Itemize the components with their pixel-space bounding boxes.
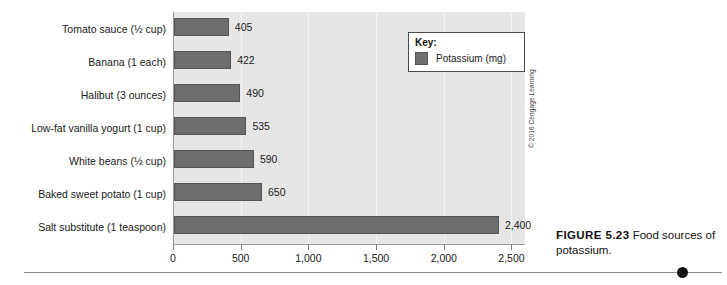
bar [174,18,229,36]
x-tick-label: 1,500 [363,252,389,264]
x-tick-label: 1,000 [295,252,321,264]
legend-entry: Potassium (mg) [415,52,518,65]
bar-value-label: 422 [237,54,255,66]
bar-value-label: 405 [235,21,253,33]
x-tick-mark [511,244,512,250]
category-label: Baked sweet potato (1 cup) [0,188,166,200]
legend-color-swatch [415,52,428,65]
bar-wrapper: 405 [174,18,252,36]
bar-wrapper: 590 [174,150,277,168]
x-tick-mark [241,244,242,250]
bar-wrapper: 535 [174,117,270,135]
bar [174,216,499,234]
x-tick-label: 2,000 [431,252,457,264]
bar-wrapper: 490 [174,84,264,102]
figure-caption: FIGURE 5.23 Food sources of potassium. [556,228,724,258]
bar-chart: Tomato sauce (½ cup)405Banana (1 each)42… [0,0,530,262]
x-tick-mark [444,244,445,250]
bar-wrapper: 650 [174,183,286,201]
x-tick-mark [376,244,377,250]
x-tick-mark [308,244,309,250]
bar-row: Salt substitute (1 teaspoon)2,400 [0,212,530,242]
category-label: Salt substitute (1 teaspoon) [0,221,166,233]
bar-value-label: 650 [268,186,286,198]
x-tick-mark [173,244,174,250]
bar-wrapper: 2,400 [174,216,531,234]
bar [174,150,254,168]
x-tick-label: 500 [232,252,250,264]
bar [174,51,231,69]
bar-value-label: 535 [252,120,270,132]
category-label: White beans (½ cup) [0,155,166,167]
category-label: Low-fat vanilla yogurt (1 cup) [0,122,166,134]
x-tick-label: 0 [170,252,176,264]
bar [174,84,240,102]
legend-box: Key: Potassium (mg) [408,32,525,72]
x-axis: 05001,0001,5002,0002,500 [173,244,525,262]
figure-container: Tomato sauce (½ cup)405Banana (1 each)42… [0,0,727,285]
category-label: Banana (1 each) [0,56,166,68]
category-label: Halibut (3 ounces) [0,89,166,101]
bar-wrapper: 422 [174,51,255,69]
x-tick-label: 2,500 [498,252,524,264]
figure-number: FIGURE 5.23 [556,229,629,241]
footer-divider [24,272,722,273]
bar-row: Halibut (3 ounces)490 [0,80,530,110]
bar-value-label: 2,400 [505,219,531,231]
bar-row: Baked sweet potato (1 cup)650 [0,179,530,209]
bar-value-label: 490 [246,87,264,99]
legend-title: Key: [415,37,518,49]
copyright-notice: © 2016 Cengage Learning [528,69,535,148]
legend-entry-label: Potassium (mg) [436,53,506,64]
bar [174,117,246,135]
bar-value-label: 590 [260,153,278,165]
category-label: Tomato sauce (½ cup) [0,23,166,35]
x-axis-line [173,244,525,245]
bar-row: White beans (½ cup)590 [0,146,530,176]
bar [174,183,262,201]
footer-dot [677,267,688,278]
bar-row: Low-fat vanilla yogurt (1 cup)535 [0,113,530,143]
